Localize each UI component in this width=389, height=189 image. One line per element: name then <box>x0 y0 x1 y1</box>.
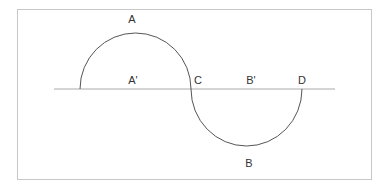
label-a: A <box>128 14 135 25</box>
label-b-prime: B' <box>246 75 255 86</box>
label-d: D <box>298 75 306 86</box>
diagram-canvas <box>0 0 389 189</box>
label-a-prime: A' <box>128 75 137 86</box>
label-b: B <box>245 158 252 169</box>
lower-semicircle-arc <box>191 89 302 146</box>
label-c: C <box>194 75 202 86</box>
